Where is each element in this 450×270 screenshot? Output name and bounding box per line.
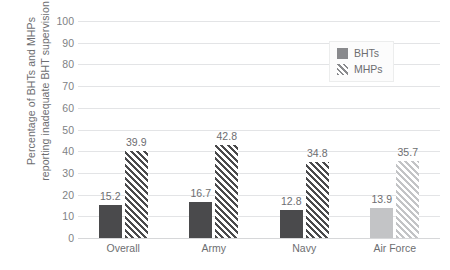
bar-value-label: 42.8 — [217, 131, 237, 142]
bar-mhps-army: 42.8 — [215, 145, 238, 238]
y-axis-tick-label: 90 — [34, 38, 74, 48]
bar-bhts-navy: 12.8 — [280, 210, 303, 238]
bar-chart: Percentage of BHTs and MHPs reporting in… — [0, 0, 450, 270]
bar-value-label: 16.7 — [191, 188, 211, 199]
y-axis-tick-label: 40 — [34, 146, 74, 156]
y-axis-tick-label: 30 — [34, 168, 74, 178]
legend-label-bhts: BHTs — [354, 48, 379, 59]
legend-label-mhps: MHPs — [354, 64, 383, 75]
gridline — [78, 238, 440, 239]
bar-value-label: 12.8 — [281, 196, 301, 207]
chart-legend: BHTs MHPs — [329, 41, 394, 82]
bar-value-label: 35.7 — [398, 147, 418, 158]
bar-mhps-air-force: 35.7 — [396, 161, 419, 238]
bar-group: 15.239.9 — [78, 21, 169, 238]
bar-value-label: 34.8 — [307, 148, 327, 159]
y-axis-tick-label: 70 — [34, 81, 74, 91]
legend-swatch-solid-icon — [337, 48, 348, 59]
bar-bhts-overall: 15.2 — [99, 205, 122, 238]
x-axis-tick-label: Navy — [259, 242, 350, 255]
bar-mhps-overall: 39.9 — [125, 151, 148, 238]
bar-bhts-air-force: 13.9 — [370, 208, 393, 238]
bar-value-label: 15.2 — [100, 191, 120, 202]
y-axis-tick-label: 50 — [34, 125, 74, 135]
y-axis-tick-label: 100 — [34, 16, 74, 26]
x-axis-tick-label: Army — [169, 242, 260, 255]
legend-swatch-hatch-icon — [337, 64, 348, 75]
bar-value-label: 13.9 — [372, 194, 392, 205]
y-axis-tick-label: 80 — [34, 59, 74, 69]
bar-group: 16.742.8 — [169, 21, 260, 238]
legend-item-bhts: BHTs — [337, 48, 383, 59]
x-axis-ticks: OverallArmyNavyAir Force — [78, 242, 440, 262]
bar-value-label: 39.9 — [126, 137, 146, 148]
y-axis-tick-label: 0 — [34, 233, 74, 243]
y-axis-tick-label: 20 — [34, 190, 74, 200]
y-axis-tick-label: 10 — [34, 211, 74, 221]
x-axis-tick-label: Overall — [78, 242, 169, 255]
bar-bhts-army: 16.7 — [189, 202, 212, 238]
bar-mhps-navy: 34.8 — [306, 162, 329, 238]
legend-item-mhps: MHPs — [337, 64, 383, 75]
x-axis-tick-label: Air Force — [350, 242, 441, 255]
y-axis-tick-label: 60 — [34, 103, 74, 113]
